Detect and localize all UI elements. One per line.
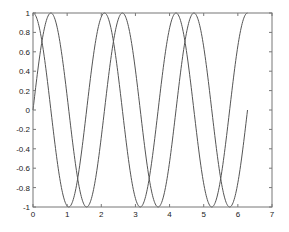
x-tick-label: 2 xyxy=(99,210,104,219)
y-tick-label: 0.4 xyxy=(19,67,31,76)
y-tick-label: 1 xyxy=(26,9,31,18)
y-tick-label: 0 xyxy=(26,106,31,115)
x-tick-label: 1 xyxy=(65,210,70,219)
x-tick-label: 4 xyxy=(167,210,172,219)
y-tick-label: 0.8 xyxy=(19,28,31,37)
y-tick-label: -0.4 xyxy=(16,145,30,154)
x-tick-label: 0 xyxy=(31,210,36,219)
x-tick-label: 6 xyxy=(236,210,241,219)
y-tick-label: 0.2 xyxy=(19,87,31,96)
y-tick-label: -0.8 xyxy=(16,184,30,193)
x-tick-label: 5 xyxy=(201,210,206,219)
y-tick-label: -1 xyxy=(23,203,31,212)
x-tick-label: 7 xyxy=(270,210,275,219)
line-chart: 01234567 10.80.60.40.20-0.2-0.4-0.6-0.8-… xyxy=(0,0,289,232)
y-tick-label: -0.2 xyxy=(16,125,30,134)
y-tick-label: -0.6 xyxy=(16,164,30,173)
series-line-0 xyxy=(33,13,248,207)
y-tick-label: 0.6 xyxy=(19,48,31,57)
plot-lines xyxy=(33,13,248,207)
x-tick-label: 3 xyxy=(133,210,138,219)
y-axis-ticks: 10.80.60.40.20-0.2-0.4-0.6-0.8-1 xyxy=(16,9,272,212)
